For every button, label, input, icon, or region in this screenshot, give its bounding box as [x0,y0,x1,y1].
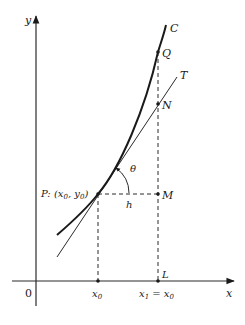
point-label-l: L [161,269,169,280]
tick-label-x1: x1 = x0 [139,288,175,301]
point-label-p: P: (x0, y0) [40,188,88,201]
y-axis-label: y [24,14,32,27]
point-l [156,279,160,283]
x-axis-label: x [226,287,233,300]
point-p [96,192,100,196]
tick-x0 [96,279,100,283]
point-n [156,102,160,106]
tangent-diagram: y x 0 C T Q N M L θ h P: (x0, y0) x0 x1 … [0,0,245,325]
point-q [156,50,160,54]
angle-arc [116,168,129,193]
point-label-m: M [161,189,174,202]
point-m [156,192,160,196]
curve-label-c: C [170,22,179,35]
point-label-q: Q [162,47,171,60]
tick-label-x0: x0 [92,288,103,301]
angle-label-theta: θ [130,163,136,174]
tangent-label-t: T [180,69,189,82]
point-label-n: N [161,99,172,112]
curve-c [57,25,166,235]
increment-label-h: h [126,199,132,210]
origin-label: 0 [25,287,32,300]
